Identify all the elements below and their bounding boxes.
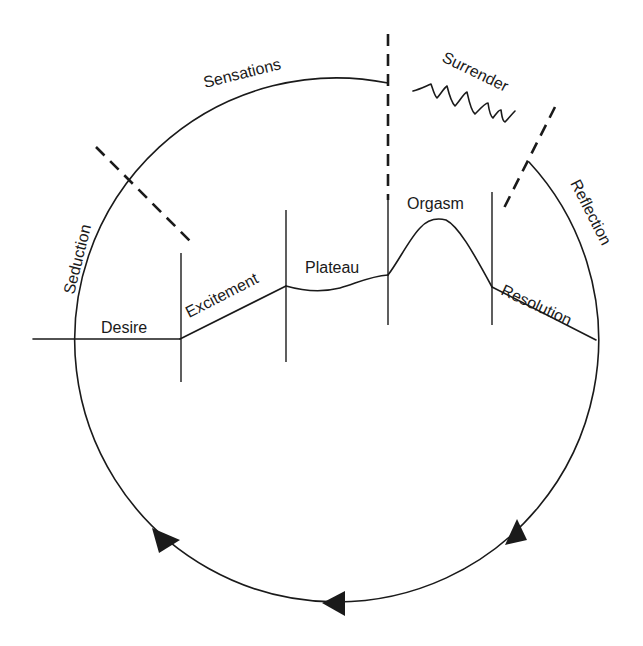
label-resolution: Resolution	[499, 281, 575, 328]
arrow-lower-left-head-icon	[152, 528, 180, 553]
label-plateau: Plateau	[305, 259, 359, 276]
label-surrender: Surrender	[440, 48, 512, 95]
orgasm-curve	[388, 219, 492, 287]
label-reflection: Reflection	[567, 177, 614, 248]
response-cycle-diagram: Desire Excitement Plateau Orgasm Resolut…	[0, 0, 643, 646]
label-excitement: Excitement	[183, 269, 262, 320]
arrow-bottom-icon	[322, 591, 345, 616]
label-orgasm: Orgasm	[407, 195, 464, 212]
cycle-circle	[75, 78, 599, 602]
plateau-line	[286, 275, 388, 291]
dashed-divider-reflection	[502, 107, 555, 212]
label-seduction: Seduction	[60, 223, 94, 296]
label-desire: Desire	[101, 319, 147, 336]
label-sensations: Sensations	[202, 55, 283, 91]
